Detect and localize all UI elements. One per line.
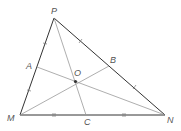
side-PN <box>54 18 165 115</box>
point-O <box>74 80 77 83</box>
tick-mark-PA <box>43 43 47 44</box>
label-A: A <box>25 61 32 71</box>
label-N: N <box>167 115 174 125</box>
label-M: M <box>7 113 15 123</box>
triangle-diagram: P M N A B C O <box>0 0 181 131</box>
label-B: B <box>110 55 116 65</box>
label-P: P <box>51 6 57 16</box>
tick-mark-AM <box>27 90 31 91</box>
label-C: C <box>84 117 91 127</box>
median-MB <box>20 66 109 115</box>
label-O: O <box>74 68 81 78</box>
median-NA <box>37 67 165 115</box>
